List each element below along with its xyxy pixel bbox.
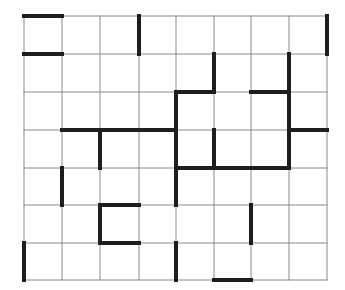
grid-puzzle-diagram: [0, 0, 345, 290]
grid-canvas: [0, 0, 345, 290]
